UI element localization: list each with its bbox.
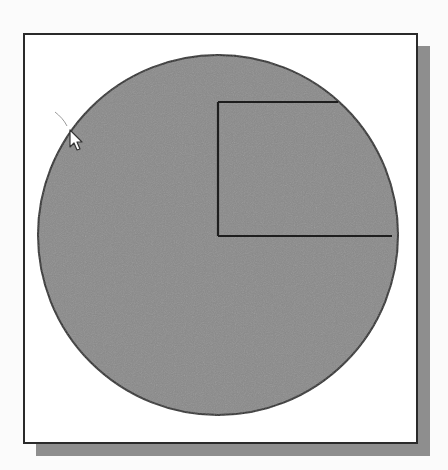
drawing-layer bbox=[0, 0, 448, 470]
